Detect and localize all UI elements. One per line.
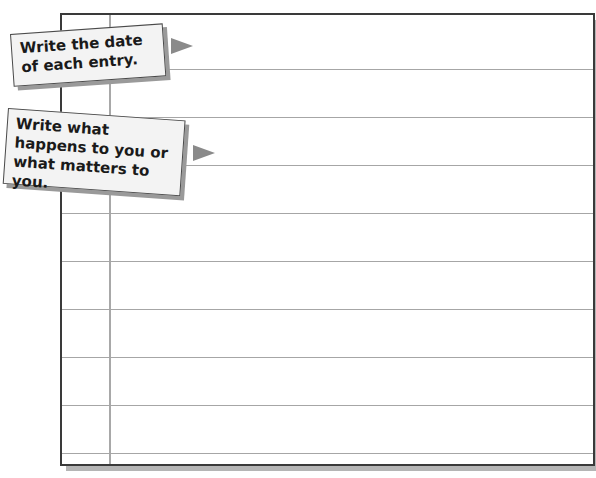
callout-date-text: Write the date of each entry. (19, 31, 143, 76)
rule-line (62, 405, 593, 406)
rule-line (62, 357, 593, 358)
rule-line (62, 261, 593, 262)
journal-page (60, 13, 595, 466)
callout-date: Write the date of each entry. (10, 23, 166, 87)
rule-line (62, 309, 593, 310)
callout-entry: Write what happens to you or what matter… (3, 108, 186, 196)
rule-line (62, 453, 593, 454)
arrow-right-icon (171, 38, 193, 54)
arrow-right-icon (193, 145, 215, 161)
date-margin-line (109, 15, 111, 464)
callout-entry-text: Write what happens to you or what matter… (11, 115, 168, 192)
rule-line (62, 213, 593, 214)
